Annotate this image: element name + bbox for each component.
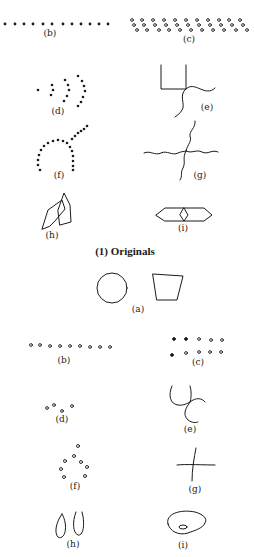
reproduction-e-cross bbox=[170, 386, 205, 423]
original-label-h: (h) bbox=[46, 230, 59, 240]
original-label-g: (g) bbox=[194, 170, 207, 180]
reproduction-g-plus bbox=[177, 448, 215, 481]
reproduction-label-b: (b) bbox=[58, 355, 71, 365]
original-label-f: (f) bbox=[54, 170, 64, 180]
original-i-hexagon bbox=[156, 208, 212, 221]
reproduction-f-circles bbox=[60, 445, 89, 479]
original-label-e: (e) bbox=[201, 102, 213, 112]
reproduction-b-circles bbox=[30, 344, 112, 349]
reproduction-a-shapes bbox=[97, 273, 183, 303]
figure-drawings bbox=[0, 0, 254, 557]
reproduction-label-c: (c) bbox=[192, 357, 204, 367]
reproduction-c-dots bbox=[171, 338, 224, 357]
original-d-arcs bbox=[37, 75, 87, 108]
original-label-i: (i) bbox=[178, 223, 188, 233]
section-caption: (1) Originals bbox=[95, 245, 155, 257]
original-label-c: (c) bbox=[183, 34, 195, 44]
reproduction-label-d: (d) bbox=[56, 414, 69, 424]
reproduction-label-a: (a) bbox=[132, 304, 144, 314]
original-c-circles bbox=[131, 19, 249, 32]
original-h-polygons bbox=[42, 193, 71, 229]
original-f-dots bbox=[37, 125, 89, 172]
figure-canvas: (b) (c) (d) (e) (f) (g) (h) (i) (1) Orig… bbox=[0, 0, 254, 557]
original-b-dots bbox=[4, 23, 110, 26]
original-g-cross bbox=[144, 121, 218, 180]
reproduction-label-h: (h) bbox=[67, 539, 80, 549]
reproduction-label-g: (g) bbox=[189, 484, 202, 494]
reproduction-i-blob bbox=[168, 511, 206, 534]
reproduction-label-f: (f) bbox=[70, 481, 80, 491]
original-label-d: (d) bbox=[52, 106, 65, 116]
reproduction-d-circles bbox=[46, 404, 74, 413]
original-label-b: (b) bbox=[44, 28, 57, 38]
reproduction-label-i: (i) bbox=[178, 540, 188, 550]
reproduction-label-e: (e) bbox=[184, 424, 196, 434]
reproduction-h-loops bbox=[56, 512, 84, 538]
